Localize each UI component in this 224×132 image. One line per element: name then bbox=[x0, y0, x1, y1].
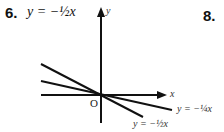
x-axis-label: x bbox=[170, 88, 174, 99]
line-label-quarter: y = −¼x bbox=[177, 103, 212, 114]
line-label-half: y = −½x bbox=[133, 118, 168, 129]
origin-label: O bbox=[90, 97, 98, 109]
y-axis-label: y bbox=[106, 5, 110, 16]
x-axis-arrow-icon bbox=[157, 91, 167, 99]
y-axis-arrow-icon bbox=[97, 7, 105, 17]
line-y-neg-half-x bbox=[41, 64, 143, 117]
